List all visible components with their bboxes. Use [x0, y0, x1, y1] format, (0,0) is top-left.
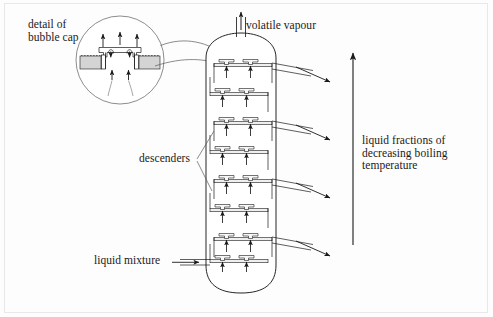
distillation-diagram: detail of bubble cap volatile vapour des…: [0, 0, 493, 317]
feed-inlet-pipe: [172, 260, 210, 266]
descenders-label: descenders: [139, 152, 190, 165]
detail-callout-group: [76, 16, 228, 104]
volatile-vapour-label: volatile vapour: [246, 19, 316, 32]
product-outlets: [272, 63, 330, 256]
outlet-pipe-4: [272, 237, 330, 256]
outlet-pipe-3: [272, 179, 330, 198]
column-shell: [206, 33, 276, 293]
liquid-fractions-label: liquid fractions of decreasing boiling t…: [362, 134, 448, 172]
distillation-column: [172, 12, 330, 293]
outlet-pipe-2: [272, 121, 330, 140]
liquid-mixture-label: liquid mixture: [94, 254, 160, 267]
detail-of-bubble-cap-label: detail of bubble cap: [28, 18, 79, 43]
outlet-pipe-1: [272, 63, 330, 82]
